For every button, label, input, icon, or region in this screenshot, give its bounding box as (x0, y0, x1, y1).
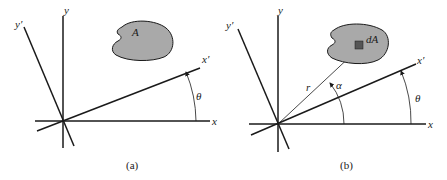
dA-element (355, 41, 363, 49)
theta-label: θ (415, 92, 421, 104)
y-prime-axis (238, 29, 289, 149)
caption-b: (b) (340, 159, 353, 172)
r-vector (278, 53, 354, 124)
alpha-label: α (336, 79, 342, 91)
x-axis-label: x (427, 118, 433, 130)
area-A-shape (112, 21, 173, 60)
y-prime-axis-label: y′ (225, 19, 234, 31)
r-label: r (306, 81, 311, 93)
x-prime-axis-label: x′ (201, 53, 210, 65)
panel-a: y y′ x x′ θ A (a) (14, 4, 217, 172)
y-prime-axis-label: y′ (14, 18, 23, 30)
theta-arc (401, 71, 411, 124)
x-axis-label: x (211, 115, 217, 127)
dA-label: dA (366, 33, 379, 45)
y-prime-axis (24, 27, 74, 146)
y-axis-label: y (63, 4, 69, 16)
caption-a: (a) (126, 159, 139, 172)
theta-arc (186, 72, 196, 121)
rotated-axes-diagram: y y′ x x′ θ A (a) y y′ x x′ r α θ dA (b) (0, 0, 447, 180)
y-axis-label: y (277, 4, 283, 16)
x-prime-axis-label: x′ (416, 54, 425, 66)
area-label: A (131, 26, 139, 38)
panel-b: y y′ x x′ r α θ dA (b) (225, 4, 433, 172)
theta-label: θ (196, 90, 202, 102)
